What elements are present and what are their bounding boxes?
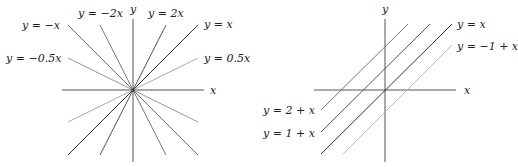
- right-chart: y x y = x y = −1 + x y = 2 + x y = 1 + x: [262, 3, 518, 162]
- diagram-canvas: y x y = −x y = −2x y = 2x y = x y = −0.5…: [0, 0, 518, 167]
- label-y-half-x: y = 0.5x: [203, 52, 251, 65]
- right-y-axis-label: y: [381, 3, 389, 16]
- label-y-1-plus-x: y = 1 + x: [262, 127, 316, 140]
- line-y-2-plus-x: [321, 24, 408, 110]
- label-y-x-right: y = x: [456, 18, 486, 31]
- right-x-axis-label: x: [464, 84, 471, 97]
- left-chart: y x y = −x y = −2x y = 2x y = x y = −0.5…: [5, 3, 251, 162]
- label-y-2x: y = 2x: [147, 7, 184, 20]
- label-y-2-plus-x: y = 2 + x: [262, 104, 316, 117]
- line-y-neg1-plus-x: [343, 45, 452, 154]
- left-y-axis-label: y: [129, 3, 137, 16]
- label-y-neg-2x: y = −2x: [77, 7, 124, 20]
- left-origin-dot: [131, 88, 134, 91]
- line-y-x-right: [321, 24, 452, 154]
- label-y-neg1-plus-x: y = −1 + x: [456, 40, 518, 53]
- line-y-1-plus-x: [321, 24, 430, 132]
- label-y-neg-x: y = −x: [21, 19, 61, 32]
- label-y-neg-half-x: y = −0.5x: [5, 52, 62, 65]
- left-x-axis-label: x: [210, 84, 217, 97]
- label-y-x: y = x: [203, 18, 233, 31]
